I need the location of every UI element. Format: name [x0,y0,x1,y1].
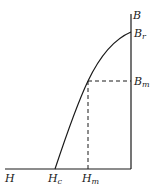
bm-label: Bm [133,75,150,89]
b-axis-label: B [132,9,141,22]
hm-label: Hm [81,172,100,185]
br-label: Br [133,27,147,41]
demagnetization-curve [55,32,131,169]
hc-label: Hc [47,172,63,185]
bh-diagram: B H Br Bm Hc Hm [0,0,156,185]
h-axis-label: H [4,172,15,185]
